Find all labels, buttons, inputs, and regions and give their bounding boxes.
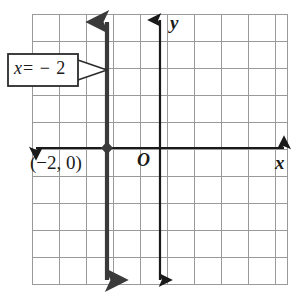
coordinate-plane-svg xyxy=(0,0,302,301)
callout-equation-variable: x xyxy=(14,58,23,78)
origin-label: O xyxy=(137,150,150,171)
callout-equation-label: x= − 2 xyxy=(14,58,66,79)
callout-equation-rest: = − 2 xyxy=(23,58,66,78)
y-axis-label: y xyxy=(170,12,178,34)
graph-figure: x= − 2 (−2, 0) O y x xyxy=(0,0,302,301)
point-coordinate-label: (−2, 0) xyxy=(30,152,82,174)
x-axis-label: x xyxy=(275,152,285,174)
